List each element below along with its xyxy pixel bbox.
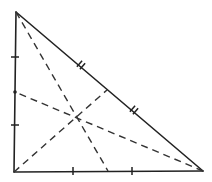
- median-from-c: [15, 92, 203, 171]
- side-bc: [14, 171, 203, 172]
- midpoint-ab-dot: [13, 90, 17, 94]
- median-from-b: [14, 90, 107, 172]
- triangle: [14, 12, 203, 172]
- equal-segment-ticks: [11, 57, 138, 175]
- triangle-medians-diagram: [0, 0, 212, 182]
- median-from-a: [16, 12, 108, 171]
- medians: [14, 12, 203, 172]
- side-ac: [16, 12, 203, 171]
